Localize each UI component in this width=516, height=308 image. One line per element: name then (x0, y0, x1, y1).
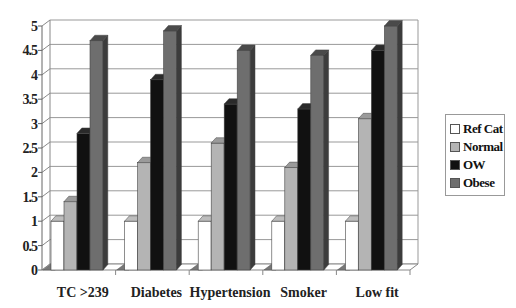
legend-label: Normal (463, 139, 503, 155)
x-category-label: Diabetes (131, 285, 183, 300)
legend-label: Ref Cat (463, 121, 502, 137)
legend-label: Obese (463, 175, 494, 191)
y-tick-label: 4.5 (23, 43, 39, 58)
chart-legend: Ref Cat Normal OW Obese (445, 114, 505, 196)
x-category-label: Smoker (280, 285, 327, 300)
legend-label: OW (463, 157, 485, 173)
legend-item-obese: Obese (450, 174, 504, 192)
y-tick-label: 1 (31, 214, 38, 229)
bar (384, 21, 402, 270)
y-tick-label: 0 (31, 263, 38, 278)
y-axis: 00.511.522.533.544.55 (23, 19, 43, 278)
legend-swatch (450, 178, 460, 188)
y-tick-label: 1.5 (23, 190, 39, 205)
bar (164, 25, 182, 270)
x-category-label: TC >239 (57, 285, 109, 300)
bar-chart: 00.511.522.533.544.55TC >239DiabetesHype… (0, 0, 516, 308)
legend-swatch (450, 124, 460, 134)
y-tick-label: 5 (31, 19, 38, 34)
y-tick-label: 0.5 (23, 239, 39, 254)
legend-swatch (450, 160, 460, 170)
y-tick-label: 2 (31, 165, 38, 180)
legend-item-ow: OW (450, 156, 504, 174)
bar (311, 50, 329, 270)
legend-swatch (450, 142, 460, 152)
y-tick-label: 4 (31, 68, 38, 83)
bar (90, 35, 108, 270)
y-tick-label: 3.5 (23, 92, 39, 107)
legend-item-normal: Normal (450, 138, 504, 156)
x-category-label: Low fit (356, 285, 400, 300)
legend-item-ref-cat: Ref Cat (450, 120, 504, 138)
x-category-label: Hypertension (190, 285, 271, 300)
bar (237, 45, 255, 270)
y-tick-label: 3 (31, 117, 38, 132)
y-tick-label: 2.5 (23, 141, 39, 156)
bars (43, 21, 410, 275)
